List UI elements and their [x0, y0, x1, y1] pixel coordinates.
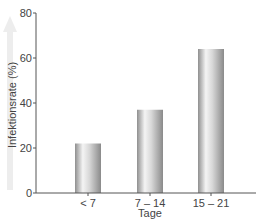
x-axis-title: Tage	[138, 207, 162, 219]
y-tick-label: 60	[20, 52, 32, 64]
x-tick-label: 15 – 21	[193, 197, 230, 209]
bars	[75, 49, 224, 193]
y-tick-label: 40	[20, 97, 32, 109]
y-tick-label: 80	[20, 7, 32, 19]
y-axis-title: Infektionsrate (%)	[6, 62, 18, 148]
x-tick-label: < 7	[80, 197, 96, 209]
bar	[137, 110, 163, 193]
y-axis: 020406080	[20, 7, 36, 199]
bar	[198, 49, 224, 193]
bar-chart: Infektionsrate (%) 020406080 < 77 – 1415…	[0, 0, 261, 222]
bar	[75, 144, 101, 194]
y-tick-label: 20	[20, 142, 32, 154]
y-tick-label: 0	[26, 187, 32, 199]
